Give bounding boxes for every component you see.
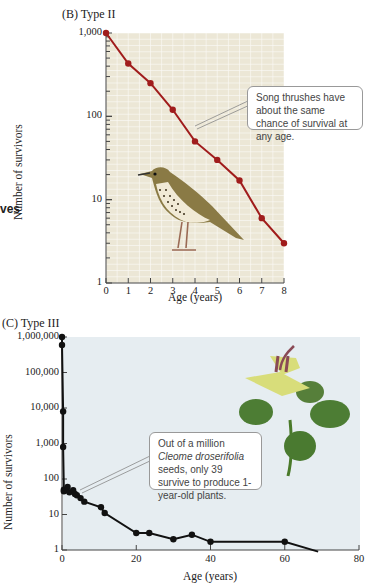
data-point: [60, 408, 66, 414]
panel-c-y-tick: 100,000: [25, 366, 59, 377]
panel-b-x-tick: 4: [192, 285, 197, 296]
data-point: [189, 531, 195, 537]
panel-c-x-tick: 40: [205, 553, 216, 564]
callout-species-name: Cleome droserifolia: [158, 451, 244, 462]
panel-c-x-tick: 0: [59, 553, 64, 564]
data-point: [59, 334, 65, 340]
panel-c-y-tick: 10: [49, 508, 60, 519]
panel-c-y-tick: 1: [54, 543, 59, 554]
panel-b-x-tick: 1: [126, 285, 131, 296]
panel-b-x-tick: 0: [103, 285, 108, 296]
panel-b-x-tick: 2: [148, 285, 153, 296]
panel-c-x-tick: 80: [354, 553, 365, 564]
data-point: [60, 444, 66, 450]
panel-b-x-tick: 7: [259, 285, 264, 296]
panel-c-y-tick: 10,000: [30, 401, 59, 412]
panel-b-x-tick: 5: [215, 285, 220, 296]
data-point: [64, 484, 70, 490]
panel-b-x-tick: 6: [237, 285, 242, 296]
data-point: [101, 510, 107, 516]
panel-b-x-tick: 8: [281, 285, 286, 296]
data-point: [170, 536, 176, 542]
panel-b-y-tick: 10: [92, 193, 103, 204]
data-point: [133, 530, 139, 536]
data-point: [282, 539, 288, 545]
data-point: [98, 504, 104, 510]
panel-b-x-tick: 3: [170, 285, 175, 296]
panel-b-y-tick: 1: [97, 276, 102, 287]
panel-c-y-tick: 1,000,000: [17, 330, 59, 341]
panel-b-y-tick: 1,000: [78, 26, 102, 37]
panel-c-y-tick: 100: [43, 472, 59, 483]
panel-b-y-tick: 100: [86, 109, 102, 120]
panel-c-y-axis-label-text: Number of survivors: [2, 434, 14, 530]
data-point: [146, 530, 152, 536]
callout-text-1: Out of a million: [158, 438, 225, 449]
data-point: [59, 342, 65, 348]
panel-c-x-axis-label: Age (years): [183, 570, 237, 582]
panel-c-callout: Out of a million Cleome droserifolia see…: [149, 432, 262, 490]
data-point: [207, 539, 213, 545]
panel-c-x-tick: 20: [131, 553, 142, 564]
data-point: [81, 498, 87, 504]
panel-c-y-tick: 1,000: [35, 437, 59, 448]
panel-c-x-tick: 60: [280, 553, 291, 564]
